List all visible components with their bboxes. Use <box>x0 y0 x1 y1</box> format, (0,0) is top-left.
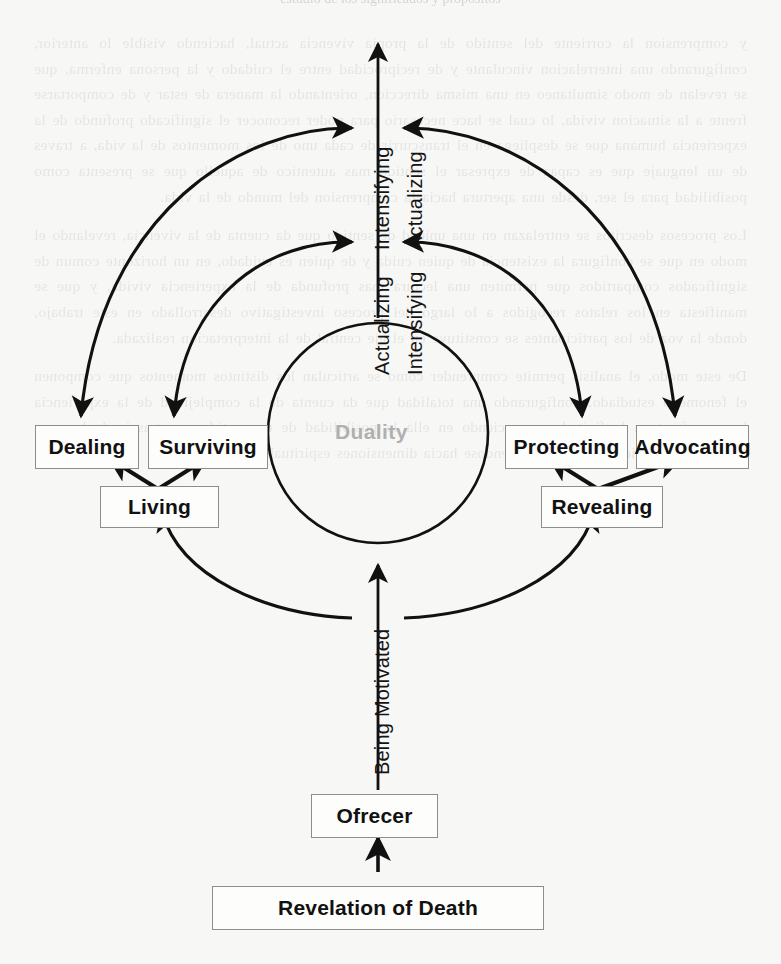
node-living[interactable]: Living <box>100 486 219 528</box>
duality-core-label: Duality <box>335 420 408 444</box>
axis-label-being-motivated: Being Motivated <box>371 629 394 775</box>
node-ofrecer[interactable]: Ofrecer <box>311 794 438 838</box>
diagram-page: estudio de los significados y propositos… <box>0 0 781 964</box>
node-protecting-label: Protecting <box>514 435 620 459</box>
axis-label-upper-right: Actualizing <box>404 151 427 250</box>
node-advocating-label: Advocating <box>634 435 750 459</box>
axis-label-upper-left: Intensifying <box>371 146 394 250</box>
node-advocating[interactable]: Advocating <box>636 425 749 469</box>
arc-dealing-outer <box>81 128 352 416</box>
node-revealing[interactable]: Revealing <box>541 486 663 528</box>
node-surviving-label: Surviving <box>159 435 257 459</box>
node-dealing-label: Dealing <box>48 435 125 459</box>
arc-surviving-inner <box>174 242 352 416</box>
arc-protecting-inner <box>404 242 582 416</box>
node-dealing[interactable]: Dealing <box>35 425 139 469</box>
node-revelation-of-death-label: Revelation of Death <box>278 896 478 920</box>
axis-label-lower-right: Intensifying <box>404 271 427 375</box>
node-surviving[interactable]: Surviving <box>148 425 268 469</box>
node-living-label: Living <box>128 495 191 519</box>
node-revelation-of-death[interactable]: Revelation of Death <box>212 886 544 930</box>
axis-label-lower-left: Actualizing <box>371 276 394 375</box>
node-revealing-label: Revealing <box>551 495 652 519</box>
arc-advocating-outer <box>404 128 675 416</box>
node-protecting[interactable]: Protecting <box>505 425 628 469</box>
node-ofrecer-label: Ofrecer <box>336 804 412 828</box>
